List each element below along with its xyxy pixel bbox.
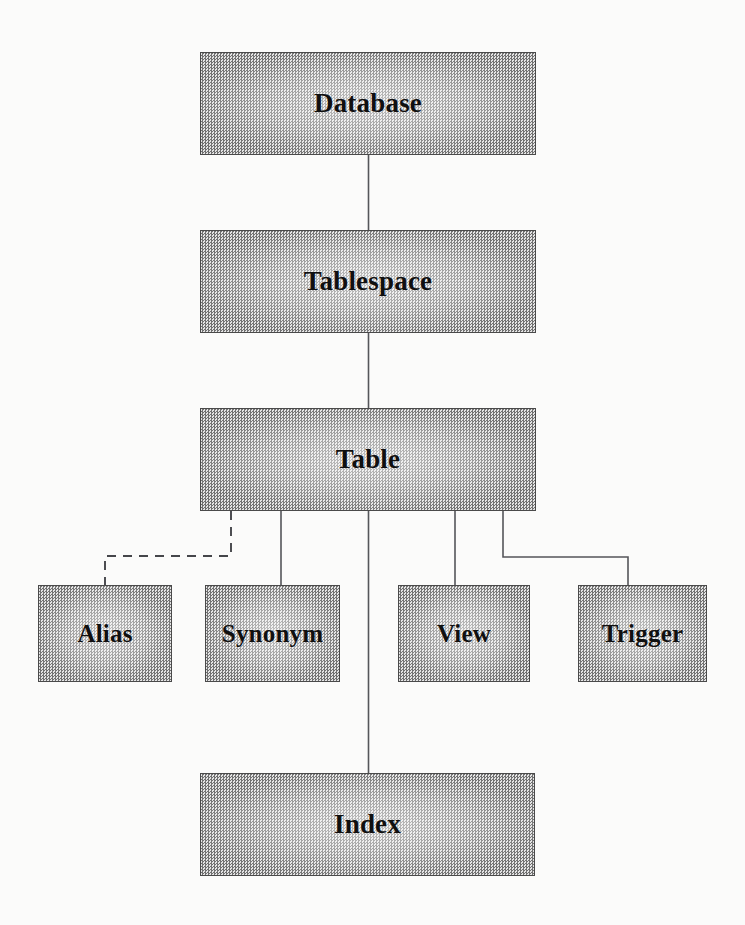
node-label-tablespace: Tablespace (304, 266, 433, 297)
node-view[interactable]: View (398, 585, 530, 682)
node-label-alias: Alias (77, 620, 132, 648)
node-table[interactable]: Table (200, 408, 536, 511)
node-label-trigger: Trigger (602, 620, 683, 648)
node-synonym[interactable]: Synonym (205, 585, 340, 682)
database-hierarchy-diagram: Database Tablespace Table Alias Synonym … (0, 0, 745, 925)
node-label-view: View (437, 620, 491, 648)
node-label-database: Database (314, 88, 422, 119)
node-index[interactable]: Index (200, 773, 535, 876)
edge-table-to-trigger (503, 511, 628, 585)
node-label-table: Table (336, 444, 401, 475)
node-tablespace[interactable]: Tablespace (200, 230, 536, 333)
node-trigger[interactable]: Trigger (578, 585, 707, 682)
edge-table-to-alias (105, 511, 231, 585)
node-database[interactable]: Database (200, 52, 536, 155)
node-alias[interactable]: Alias (38, 585, 172, 682)
node-label-index: Index (334, 809, 401, 840)
node-label-synonym: Synonym (222, 620, 323, 648)
